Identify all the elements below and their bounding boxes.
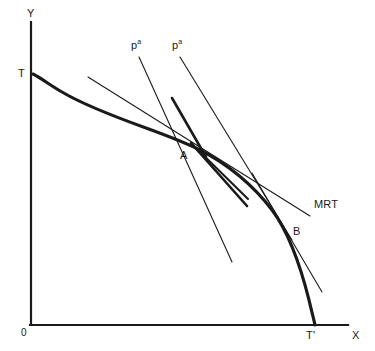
price-line-2-label: pa bbox=[172, 40, 182, 51]
x-intercept-label: T' bbox=[306, 330, 315, 341]
ppf-chart-canvas bbox=[0, 0, 375, 351]
y-axis-label: Y bbox=[27, 8, 35, 19]
x-axis-label: X bbox=[352, 330, 360, 341]
origin-label: 0 bbox=[21, 328, 27, 338]
point-a-label: A bbox=[180, 150, 188, 161]
price-line-1-label-superscript: a bbox=[137, 38, 141, 45]
tangent-stub-upper-at-a bbox=[172, 98, 206, 157]
price-line-2-label-superscript: a bbox=[178, 38, 182, 45]
price-line-1-label: pa bbox=[131, 40, 141, 51]
ppf-curve bbox=[33, 74, 315, 325]
mrt-line-label: MRT bbox=[314, 199, 338, 210]
ppf-figure: Y X 0 T T' A B MRT pa pa bbox=[0, 0, 375, 351]
point-b-label: B bbox=[293, 226, 301, 237]
y-intercept-label: T bbox=[18, 68, 25, 79]
